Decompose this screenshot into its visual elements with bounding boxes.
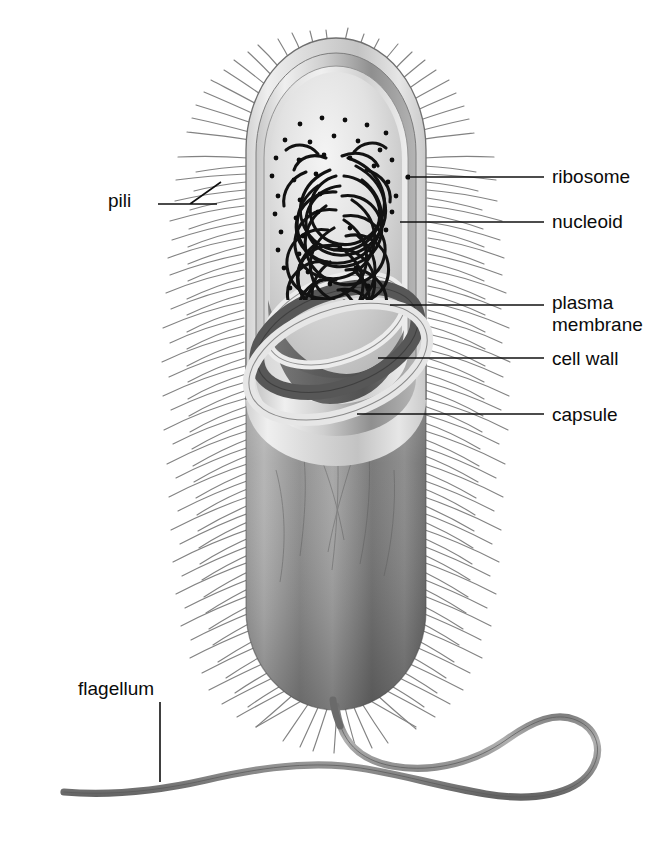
- label-nucleoid: nucleoid: [552, 211, 623, 232]
- label-flagellum: flagellum: [78, 678, 154, 699]
- diagram-canvas: pili flagellum ribosome nucleoid plasma …: [0, 0, 670, 841]
- label-pili: pili: [108, 190, 131, 211]
- label-capsule: capsule: [552, 404, 618, 425]
- bacterial-cell-figure: pili flagellum ribosome nucleoid plasma …: [0, 0, 670, 841]
- label-cell-wall: cell wall: [552, 348, 619, 369]
- label-ribosome: ribosome: [552, 166, 630, 187]
- label-plasma-membrane-line1: plasma: [552, 292, 614, 313]
- label-plasma-membrane-line2: membrane: [552, 314, 643, 335]
